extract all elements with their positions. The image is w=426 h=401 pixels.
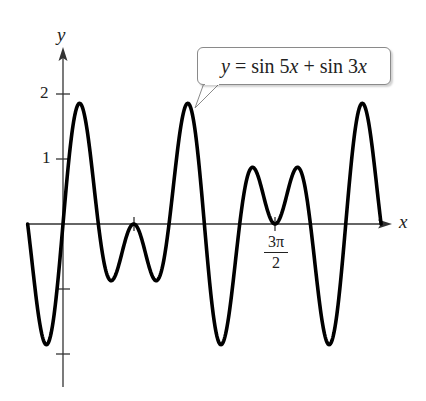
x-axis <box>28 220 392 229</box>
y-tick-label-1: 1 <box>42 148 51 168</box>
frac-denominator: 2 <box>272 254 280 271</box>
x-tick-label-3pi-over-2: 3π 2 <box>262 233 290 272</box>
x-axis-label: x <box>399 211 407 233</box>
frac-numerator: 3π <box>268 233 284 250</box>
callout-eq: = sin 5 <box>230 55 290 77</box>
y-axis-label: y <box>57 24 65 46</box>
y-tick-label-2: 2 <box>40 83 49 103</box>
callout-y: y <box>221 55 230 77</box>
equation-callout: y = sin 5x + sin 3x <box>197 47 391 85</box>
callout-x2: x <box>358 55 367 77</box>
callout-pointer <box>195 83 220 108</box>
frac-bar <box>264 252 288 253</box>
callout-plus: + sin 3 <box>298 55 358 77</box>
callout-pointer-cover <box>205 82 219 85</box>
